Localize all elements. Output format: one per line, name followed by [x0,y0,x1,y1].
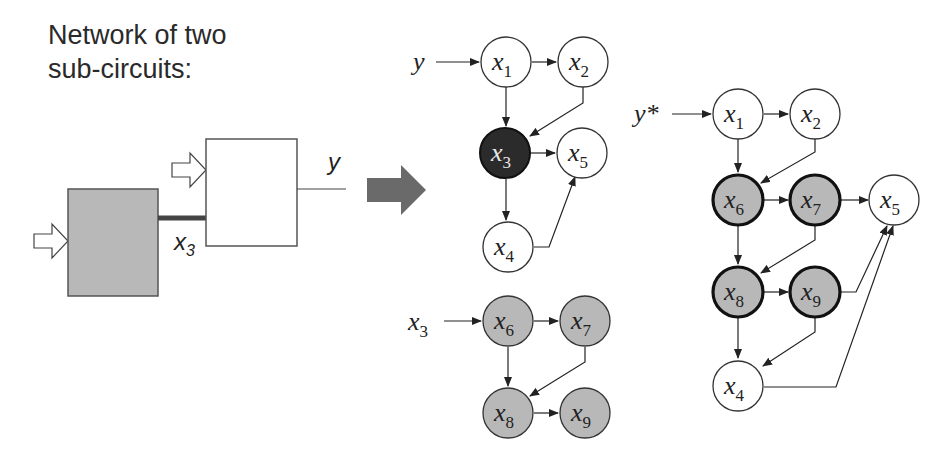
graph-right-node-x1: x1 [713,89,763,139]
graph-top-node-x3: x3 [480,128,530,178]
graph-bottom-node-x6: x6 [483,296,533,346]
graph-right-node-x2: x2 [790,89,840,139]
graph-bottom-node-x9: x9 [560,388,610,438]
circuit-diagram: y x3 [34,139,426,296]
graph-bottom-input-x3: x3 [407,307,428,341]
graph-right [672,114,893,387]
graph-right-node-x4: x4 [713,361,763,411]
graph-bottom-node-x7: x7 [560,296,610,346]
graph-right-input-ystar: y* [631,99,659,128]
wire-label-x3: x3 [173,228,195,259]
input-arrow-icon [34,224,68,258]
white-subcircuit-box [206,139,297,246]
graph-right-node-x8: x8 [713,267,763,317]
output-label-y: y [326,148,342,175]
graph-right-node-x7: x7 [790,175,840,225]
graph-top-node-x1: x1 [481,37,531,87]
gray-subcircuit-box [68,189,158,296]
graph-bottom-node-x8: x8 [483,388,533,438]
input-arrow-icon [172,153,206,187]
graph-top-input-y: y [410,47,425,76]
graph-top-node-x2: x2 [558,37,608,87]
graph-top-node-x4: x4 [483,222,533,272]
transform-arrow-icon [367,165,426,215]
graph-right-node-x5: x5 [869,175,919,225]
diagram-canvas: y x3 y x1 x2 x3 x5 x4 x [0,0,948,465]
graph-right-node-x6: x6 [713,175,763,225]
graph-right-node-x9: x9 [790,267,840,317]
graph-top-node-x5: x5 [557,128,607,178]
